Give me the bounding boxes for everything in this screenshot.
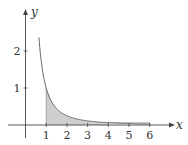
plot-area bbox=[8, 9, 175, 138]
x-tick-label: 2 bbox=[63, 129, 70, 142]
y-tick-labels: 12 bbox=[14, 45, 21, 95]
y-arrow-icon bbox=[23, 9, 28, 15]
chart: x y 123456 12 bbox=[0, 0, 188, 145]
x-tick-label: 3 bbox=[84, 129, 91, 142]
x-tick-label: 6 bbox=[146, 129, 153, 142]
x-tick-label: 1 bbox=[43, 129, 50, 142]
y-axis-label: y bbox=[30, 5, 38, 19]
x-tick-labels: 123456 bbox=[43, 129, 154, 142]
x-arrow-icon bbox=[169, 123, 175, 128]
x-tick-label: 5 bbox=[126, 129, 133, 142]
x-tick-label: 4 bbox=[105, 129, 112, 142]
y-tick-label: 2 bbox=[14, 45, 21, 58]
y-tick-label: 1 bbox=[14, 82, 21, 95]
x-axis-label: x bbox=[176, 118, 183, 132]
